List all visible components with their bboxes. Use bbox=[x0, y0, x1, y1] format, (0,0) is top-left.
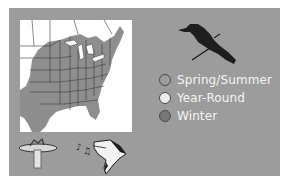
us-range-map-icon bbox=[20, 20, 132, 132]
bird-bath-icon bbox=[16, 136, 60, 172]
winter-swatch bbox=[159, 110, 171, 122]
spring-summer-swatch bbox=[159, 74, 171, 86]
range-card: Spring/Summer Year-Round Winter ♪ ♫ bbox=[9, 8, 280, 176]
woodpecker-head-icon: ♪ ♫ bbox=[76, 136, 130, 176]
year-round-swatch bbox=[159, 92, 171, 104]
legend-item-year-round: Year-Round bbox=[159, 89, 272, 107]
svg-text:♪: ♪ bbox=[76, 142, 82, 152]
svg-text:♫: ♫ bbox=[83, 146, 91, 156]
song-notes-icon: ♪ ♫ bbox=[76, 142, 91, 156]
grackle-silhouette-icon bbox=[176, 20, 240, 66]
legend-item-spring-summer: Spring/Summer bbox=[159, 71, 272, 89]
legend-label: Spring/Summer bbox=[177, 73, 272, 87]
legend-label: Year-Round bbox=[177, 91, 245, 105]
range-map bbox=[20, 20, 132, 132]
season-legend: Spring/Summer Year-Round Winter bbox=[159, 71, 272, 125]
legend-item-winter: Winter bbox=[159, 107, 272, 125]
legend-label: Winter bbox=[177, 109, 217, 123]
